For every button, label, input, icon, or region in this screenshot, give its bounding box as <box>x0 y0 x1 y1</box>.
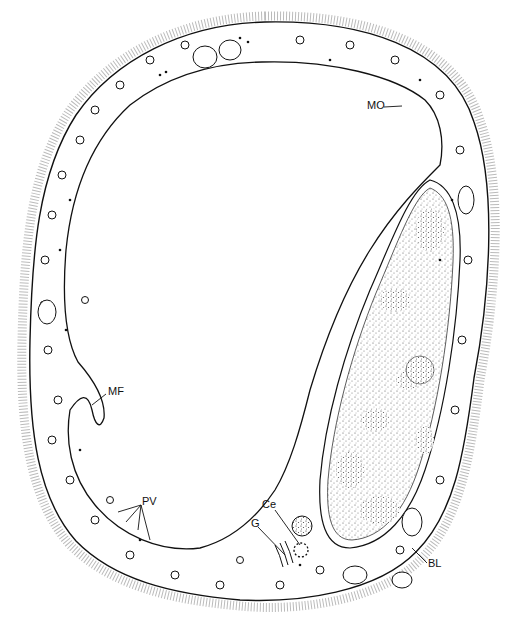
label-mo: MO <box>367 100 385 111</box>
label-mf: MF <box>108 386 124 397</box>
capillary-drawing <box>0 0 530 622</box>
figure: MO MF PV Ce G BL <box>0 0 530 622</box>
nucleolus <box>406 356 434 384</box>
multivesicular-body <box>292 516 312 536</box>
label-ce: Ce <box>262 499 276 510</box>
label-bl: BL <box>428 558 441 569</box>
label-g: G <box>251 518 260 529</box>
label-pv: PV <box>142 496 157 507</box>
